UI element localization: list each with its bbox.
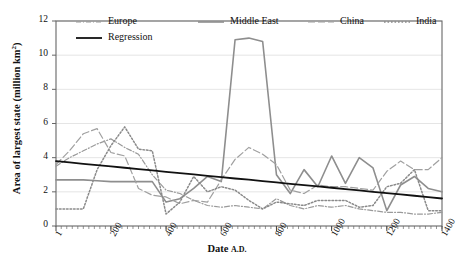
legend-label-china: China xyxy=(340,15,364,26)
legend-label-india: India xyxy=(416,15,437,26)
legend-label-europe: Europe xyxy=(108,15,137,26)
series-line-regression xyxy=(56,161,442,198)
y-tick-label: 10 xyxy=(22,48,48,58)
y-tick-label: 0 xyxy=(22,219,48,229)
y-tick-label: 8 xyxy=(22,82,48,92)
y-tick-label: 6 xyxy=(22,117,48,127)
y-tick-label: 4 xyxy=(22,151,48,161)
series-line-middle-east xyxy=(56,38,442,211)
legend-label-regression: Regression xyxy=(108,31,152,42)
y-tick-label: 2 xyxy=(22,185,48,195)
legend-label-middle-east: Middle East xyxy=(230,15,279,26)
y-tick-label: 12 xyxy=(22,14,48,24)
